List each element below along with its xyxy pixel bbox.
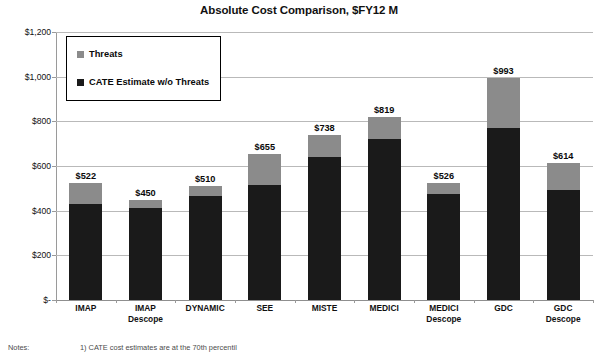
x-axis-label-line: GDC <box>533 303 593 314</box>
bar-segment-cate-estimate[interactable] <box>189 196 222 300</box>
bar-segment-cate-estimate[interactable] <box>248 185 281 300</box>
legend-label-cate-estimate: CATE Estimate w/o Threats <box>89 77 209 87</box>
x-axis-label-line: Descope <box>414 314 474 325</box>
x-axis-category-label: SEE <box>235 303 295 314</box>
y-axis-tick-mark <box>52 255 56 256</box>
x-axis-category-label: DYNAMIC <box>175 303 235 314</box>
bar-value-label: $614 <box>537 151 590 161</box>
x-axis-tick-mark <box>354 300 355 303</box>
x-axis-tick-mark <box>235 300 236 303</box>
x-axis-category-label: GDCDescope <box>533 303 593 325</box>
x-axis-label-line: IMAP <box>116 303 176 314</box>
legend-swatch-threats <box>77 51 84 58</box>
x-axis-tick-mark <box>116 300 117 303</box>
x-axis-tick-mark <box>474 300 475 303</box>
y-axis-tick-mark <box>52 121 56 122</box>
y-axis-tick-label: $- <box>3 295 51 305</box>
legend-swatch-cate-estimate <box>77 79 84 86</box>
x-axis-tick-mark <box>593 300 594 303</box>
bar-value-label: $655 <box>238 142 291 152</box>
y-axis-tick-label: $1,200 <box>3 27 51 37</box>
bar-segment-cate-estimate[interactable] <box>487 128 520 300</box>
bar-segment-threats[interactable] <box>248 154 281 185</box>
y-axis-tick-mark <box>52 32 56 33</box>
bar-segment-cate-estimate[interactable] <box>547 190 580 300</box>
footnote-text: 1) CATE cost estimates are at the 70th p… <box>80 343 237 352</box>
bar-value-label: $450 <box>119 188 172 198</box>
bar-segment-threats[interactable] <box>308 135 341 157</box>
bar-value-label: $993 <box>477 66 530 76</box>
x-axis-tick-mark <box>295 300 296 303</box>
x-axis-category-label: MEDICIDescope <box>414 303 474 325</box>
bar-value-label: $526 <box>417 171 470 181</box>
bar-segment-threats[interactable] <box>69 183 102 204</box>
y-axis-tick-mark <box>52 77 56 78</box>
bar-segment-cate-estimate[interactable] <box>69 204 102 300</box>
chart-title: Absolute Cost Comparison, $FY12 M <box>0 4 598 16</box>
bar-segment-threats[interactable] <box>547 163 580 190</box>
x-axis-category-label: MEDICI <box>354 303 414 314</box>
bar-value-label: $522 <box>59 171 112 181</box>
x-axis-label-line: GDC <box>474 303 534 314</box>
bar-segment-cate-estimate[interactable] <box>368 139 401 300</box>
x-axis-label-line: Descope <box>116 314 176 325</box>
bar-segment-threats[interactable] <box>129 200 162 208</box>
gridline <box>56 32 593 33</box>
y-axis-tick-mark <box>52 166 56 167</box>
y-axis-tick-label: $600 <box>3 161 51 171</box>
y-axis-tick-mark <box>52 211 56 212</box>
x-axis-label-line: MISTE <box>295 303 355 314</box>
y-axis-tick-label: $1,000 <box>3 72 51 82</box>
chart-container: Absolute Cost Comparison, $FY12 M $1,200… <box>0 0 598 352</box>
bar-segment-threats[interactable] <box>487 78 520 128</box>
legend-label-threats: Threats <box>89 49 123 59</box>
x-axis-tick-mark <box>533 300 534 303</box>
bar-value-label: $510 <box>179 174 232 184</box>
bar-segment-cate-estimate[interactable] <box>427 194 460 300</box>
y-axis-tick-label: $200 <box>3 250 51 260</box>
x-axis-tick-mark <box>175 300 176 303</box>
bar-value-label: $819 <box>358 105 411 115</box>
chart-legend: Threats CATE Estimate w/o Threats <box>66 36 221 101</box>
x-axis-tick-mark <box>414 300 415 303</box>
legend-item-threats: Threats <box>77 49 123 59</box>
chart-footnote: Notes:1) CATE cost estimates are at the … <box>8 343 588 352</box>
x-axis-label-line: SEE <box>235 303 295 314</box>
y-axis-tick-labels: $1,200$1,000$800$600$400$200$- <box>0 32 51 300</box>
x-axis-category-label: IMAPDescope <box>116 303 176 325</box>
x-axis-label-line: DYNAMIC <box>175 303 235 314</box>
x-axis-label-line: MEDICI <box>414 303 474 314</box>
x-axis-category-labels: IMAPIMAPDescopeDYNAMICSEEMISTEMEDICIMEDI… <box>56 303 593 343</box>
x-axis-category-label: MISTE <box>295 303 355 314</box>
bar-segment-cate-estimate[interactable] <box>129 208 162 300</box>
gridline <box>56 300 593 301</box>
bar-segment-threats[interactable] <box>427 183 460 194</box>
y-axis-tick-label: $800 <box>3 116 51 126</box>
footnote-label: Notes: <box>8 343 80 352</box>
x-axis-category-label: IMAP <box>56 303 116 314</box>
bar-segment-threats[interactable] <box>368 117 401 139</box>
bar-segment-threats[interactable] <box>189 186 222 196</box>
x-axis-category-label: GDC <box>474 303 534 314</box>
bar-segment-cate-estimate[interactable] <box>308 157 341 300</box>
x-axis-label-line: MEDICI <box>354 303 414 314</box>
x-axis-label-line: IMAP <box>56 303 116 314</box>
x-axis-label-line: Descope <box>533 314 593 325</box>
y-axis-tick-label: $400 <box>3 206 51 216</box>
bar-value-label: $738 <box>298 123 351 133</box>
x-axis-tick-mark <box>56 300 57 303</box>
legend-item-cate-estimate: CATE Estimate w/o Threats <box>77 77 209 87</box>
